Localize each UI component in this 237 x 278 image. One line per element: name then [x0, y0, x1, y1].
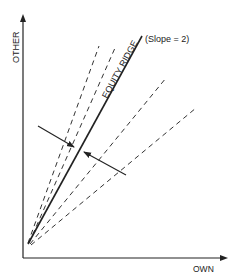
steep-dashed-line-1 [28, 46, 99, 243]
x-axis-arrowhead-icon [220, 255, 228, 261]
y-axis-label: OTHER [11, 31, 21, 63]
y-axis-arrowhead-icon [20, 14, 26, 22]
shallow-dashed-line-2 [31, 108, 196, 245]
x-axis [23, 255, 228, 261]
slope-label: (Slope = 2) [145, 34, 189, 44]
x-axis-label: OWN [193, 264, 214, 274]
equity-ridge-diagram: OTHER OWN EQUITY RIDGE (Slope = 2) [0, 0, 237, 278]
arrow-right-to-ridge [84, 152, 126, 175]
shallow-dashed-line-1 [30, 78, 166, 244]
